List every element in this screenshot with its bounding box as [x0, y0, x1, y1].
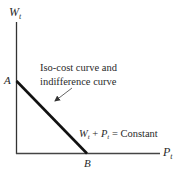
equation-rest: = Constant — [109, 128, 158, 139]
x-axis-label: Pt — [162, 145, 173, 161]
point-a-label: A — [3, 74, 11, 86]
y-axis-label-sub: t — [19, 12, 22, 21]
iso-cost-diagram: Wt Pt A B Iso-cost curve and indifferenc… — [0, 0, 181, 173]
iso-cost-line — [17, 81, 88, 154]
equation-label: Wt + Pt = Constant — [79, 128, 158, 141]
y-axis-label: Wt — [9, 5, 22, 21]
x-axis-label-sub: t — [170, 152, 173, 161]
caption-pointer-arrow — [55, 88, 72, 101]
curve-caption-line2: indifference curve — [40, 76, 117, 87]
curve-caption-line1: Iso-cost curve and — [40, 62, 118, 73]
equation-plus: + — [90, 128, 101, 139]
point-b-label: B — [84, 157, 91, 169]
